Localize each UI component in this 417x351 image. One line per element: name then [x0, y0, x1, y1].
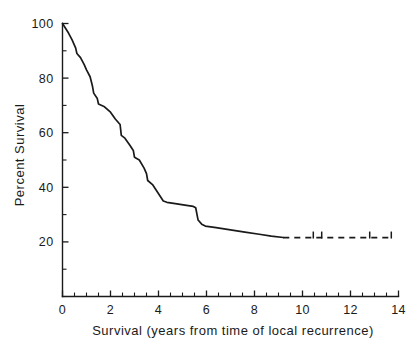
x-tick-label: 14	[391, 303, 406, 317]
x-tick-label: 0	[59, 303, 66, 317]
y-axis-ticks	[63, 24, 69, 297]
survival-curve-solid	[63, 24, 284, 238]
x-axis-tick-labels: 02468101214	[59, 303, 406, 317]
survival-plot: Percent Survival Survival (years from ti…	[0, 0, 417, 351]
y-tick-label: 80	[39, 72, 54, 86]
y-axis-tick-labels: 20406080100	[31, 17, 53, 249]
x-tick-label: 4	[155, 303, 162, 317]
x-tick-label: 6	[203, 303, 210, 317]
x-tick-label: 12	[343, 303, 358, 317]
x-axis-title: Survival (years from time of local recur…	[92, 323, 374, 338]
y-tick-label: 100	[31, 17, 53, 31]
survival-chart-figure: Percent Survival Survival (years from ti…	[0, 0, 417, 351]
x-tick-label: 10	[295, 303, 310, 317]
y-tick-label: 60	[39, 126, 54, 140]
y-tick-label: 20	[39, 235, 54, 249]
y-axis-title: Percent Survival	[12, 104, 27, 207]
x-tick-label: 2	[107, 303, 114, 317]
x-axis-ticks	[63, 291, 399, 297]
x-tick-label: 8	[251, 303, 258, 317]
y-tick-label: 40	[39, 181, 54, 195]
